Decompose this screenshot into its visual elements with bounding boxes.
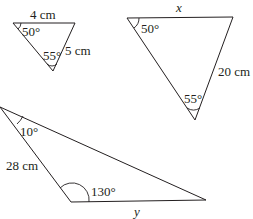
small-top-left-angle-label: 50° bbox=[22, 24, 40, 39]
obtuse-left-angle-label: 10° bbox=[20, 124, 38, 139]
large-angle-arc-55 bbox=[187, 108, 200, 110]
obtuse-left-side-label: 28 cm bbox=[6, 158, 38, 173]
large-top-side-label: x bbox=[175, 0, 182, 15]
large-triangle: x 50° 55° 20 cm bbox=[127, 0, 250, 120]
large-angle-arc-50 bbox=[134, 18, 139, 28]
obtuse-angle-label: 130° bbox=[91, 184, 116, 199]
large-top-left-angle-label: 50° bbox=[141, 21, 159, 36]
small-top-side-label: 4 cm bbox=[30, 7, 56, 22]
obtuse-bottom-side-label: y bbox=[132, 204, 140, 219]
large-bottom-angle-label: 55° bbox=[184, 91, 202, 106]
small-bottom-angle-label: 55° bbox=[43, 48, 61, 63]
obtuse-angle-arc-10 bbox=[17, 116, 23, 124]
large-right-side-label: 20 cm bbox=[218, 64, 250, 79]
small-angle-arc-50 bbox=[18, 23, 21, 29]
triangles-diagram: 4 cm 50° 55° 5 cm x 50° 55° 20 cm 10° 28… bbox=[0, 0, 253, 219]
small-triangle: 4 cm 50° 55° 5 cm bbox=[13, 7, 91, 71]
small-right-side-label: 5 cm bbox=[65, 43, 91, 58]
obtuse-triangle: 10° 28 cm 130° y bbox=[0, 107, 206, 219]
